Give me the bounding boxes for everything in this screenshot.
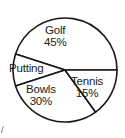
pie-chart-figure: Golf 45% Putting Bowls 30% Tennis 15% / <box>0 0 125 138</box>
pie-label-tennis-percent: 15% <box>71 88 103 100</box>
pie-label-bowls: Bowls 30% <box>26 84 56 107</box>
pie-label-bowls-percent: 30% <box>26 96 56 108</box>
pie-label-golf: Golf 45% <box>44 25 66 48</box>
pie-label-golf-name: Golf <box>44 25 66 37</box>
pie-label-putting: Putting <box>9 63 43 75</box>
pie-label-golf-percent: 45% <box>44 37 66 49</box>
pie-label-putting-name: Putting <box>9 63 43 75</box>
pie-label-tennis-name: Tennis <box>71 76 103 88</box>
corner-artifact-mark: / <box>1 126 5 135</box>
pie-label-tennis: Tennis 15% <box>71 76 103 99</box>
pie-label-bowls-name: Bowls <box>26 84 56 96</box>
